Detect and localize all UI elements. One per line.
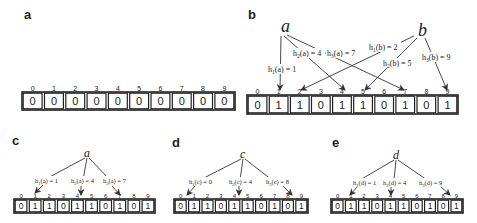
bit-value: 1 (348, 201, 353, 211)
hash-edge-a-1 (280, 36, 281, 90)
bit-value: 0 (131, 201, 136, 211)
bit-value: 1 (276, 99, 282, 111)
bit-index: 4 (233, 193, 237, 199)
bit-index: 8 (424, 88, 428, 95)
panel-d: d c h1(c) = 0 h2(c) = 4 h3(c) = 8 001121… (172, 135, 308, 213)
bit-array-a: 00102030405060708090 (22, 85, 235, 110)
hash-edge-d-0 (200, 159, 241, 180)
hash-label-e2: h2(d) = 4 (382, 178, 412, 188)
bit-value: 0 (179, 95, 185, 107)
bit-value: 0 (423, 99, 429, 111)
bit-value: 0 (381, 99, 387, 111)
bit-index: 1 (349, 193, 353, 199)
bit-value: 0 (93, 95, 99, 107)
bit-index: 3 (376, 193, 380, 199)
bit-value: 1 (33, 201, 38, 211)
bit-value: 0 (19, 201, 24, 211)
bit-index: 9 (300, 193, 304, 199)
bit-index: 7 (403, 88, 407, 95)
bit-value: 1 (205, 201, 210, 211)
bit-index: 8 (201, 85, 205, 92)
bit-value: 1 (454, 201, 459, 211)
bit-index: 7 (428, 193, 432, 199)
bit-index: 3 (95, 85, 99, 92)
bit-index: 6 (259, 193, 263, 199)
bit-value: 0 (200, 95, 206, 107)
bit-index: 1 (277, 88, 281, 95)
bit-index: 2 (298, 88, 302, 95)
hash-label-h2a: h2(a) = 4 (292, 48, 325, 59)
bit-value: 1 (75, 201, 80, 211)
bit-index: 5 (246, 193, 250, 199)
bit-value: 0 (414, 201, 419, 211)
bit-value: 0 (335, 201, 340, 211)
bit-index: 7 (180, 85, 184, 92)
hash-label-e1: h1(d) = 1 (352, 178, 382, 188)
hash-edge-e-1 (360, 160, 394, 180)
bit-value: 1 (339, 99, 345, 111)
bit-value: 0 (61, 201, 66, 211)
bloom-filter-figure: a 00102030405060708090 b a b h1(a) = 1 h… (0, 0, 477, 223)
panel-label-c: c (12, 133, 19, 148)
bit-value: 1 (117, 201, 122, 211)
bit-index: 6 (415, 193, 419, 199)
bit-value: 0 (51, 95, 57, 107)
bit-value: 1 (360, 99, 366, 111)
hash-edge-b-9 (425, 38, 447, 90)
bit-value: 0 (72, 95, 78, 107)
bit-array-d: 00112130415160718091 (174, 193, 308, 213)
bit-index: 4 (389, 193, 393, 199)
bit-value: 1 (362, 201, 367, 211)
bit-index: 2 (206, 193, 210, 199)
panel-e: e d h1(d) = 1 h2(d) = 4 h3(d) = 9 001121… (331, 135, 463, 213)
bit-value: 1 (89, 201, 94, 211)
bit-value: 0 (103, 201, 108, 211)
query-node-d: d (393, 148, 400, 162)
bit-index: 2 (48, 193, 52, 199)
bit-index: 3 (62, 193, 66, 199)
hash-label-h1b: h1(b) = 2 (368, 42, 401, 53)
hash-label-c3: h3(a) = 7 (102, 176, 132, 186)
hash-label-h3b: h3(b) = 9 (421, 52, 454, 63)
bit-value: 1 (402, 99, 408, 111)
bit-value: 1 (388, 201, 393, 211)
bit-value: 0 (219, 201, 224, 211)
bit-index: 5 (137, 85, 141, 92)
bit-index: 8 (286, 193, 290, 199)
hash-label-h2b: h2(b) = 5 (382, 58, 415, 69)
panel-label-e: e (332, 135, 339, 150)
panel-label-d: d (172, 135, 180, 150)
bit-index: 1 (192, 193, 196, 199)
bit-index: 2 (362, 193, 366, 199)
bit-index: 6 (382, 88, 386, 95)
bit-index: 5 (90, 193, 94, 199)
bit-index: 9 (445, 88, 449, 95)
bit-index: 5 (402, 193, 406, 199)
bit-array-b: 00112130415160718091 (247, 88, 458, 114)
hash-label-h1a: h1(a) = 1 (267, 64, 299, 75)
bit-index: 1 (33, 193, 37, 199)
bit-index: 3 (319, 88, 323, 95)
bit-value: 0 (259, 201, 264, 211)
bit-index: 9 (455, 193, 459, 199)
hash-edge-e-9 (398, 160, 427, 180)
bit-value: 0 (136, 95, 142, 107)
hash-label-d3: h3(c) = 8 (265, 177, 295, 187)
bit-index: 0 (31, 85, 35, 92)
hash-label-d2: h2(c) = 4 (228, 177, 258, 187)
bit-value: 0 (157, 95, 163, 107)
bit-value: 1 (245, 201, 250, 211)
bit-value: 1 (272, 201, 277, 211)
bit-index: 8 (132, 193, 136, 199)
hash-label-c2: h2(a) = 4 (70, 176, 100, 186)
bit-index: 9 (222, 85, 226, 92)
bit-index: 4 (116, 85, 120, 92)
panel-label-a: a (24, 7, 32, 22)
hash-label-d1: h1(c) = 0 (188, 177, 218, 187)
bit-index: 7 (118, 193, 122, 199)
element-node-b: b (418, 20, 427, 40)
bit-value: 0 (221, 95, 227, 107)
bit-value: 1 (192, 201, 197, 211)
bit-index: 2 (73, 85, 77, 92)
bit-value: 0 (178, 201, 183, 211)
